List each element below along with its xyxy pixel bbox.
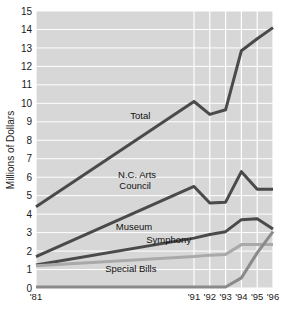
y-tick-label: 3 [26,227,32,238]
x-tick-label: '94 [235,291,247,302]
y-tick-label: 8 [26,135,32,146]
series-label-symphony: Symphony [146,234,191,245]
series-label-n-c-arts-council: N.C. Arts [118,169,156,180]
y-tick-label: 10 [21,98,33,109]
y-tick-label: 15 [21,6,33,17]
y-tick-label: 6 [26,172,32,183]
y-tick-label: 2 [26,246,32,257]
x-tick-label: '92 [204,291,216,302]
y-tick-label: 12 [21,61,33,72]
y-tick-label: 14 [21,24,33,35]
x-tick-label: '93 [219,291,231,302]
line-chart: 0123456789101112131415 '81'91'92'93'94'9… [0,0,281,309]
chart-container: 0123456789101112131415 '81'91'92'93'94'9… [0,0,281,309]
series-label-special-bills: Special Bills [105,263,156,274]
y-tick-label: 7 [26,153,32,164]
y-tick-label: 4 [26,209,32,220]
series-label-n-c-arts-council-line2: Council [119,180,151,191]
x-tick-label: '96 [267,291,279,302]
x-tick-label: '81 [30,291,42,302]
y-tick-label: 11 [22,79,33,90]
x-tick-label: '91 [188,291,200,302]
y-tick-label: 13 [21,43,33,54]
x-tick-label: '95 [251,291,263,302]
y-tick-label: 1 [26,264,32,275]
series-label-total: Total [130,110,150,121]
y-tick-label: 9 [26,116,32,127]
y-tick-label: 5 [26,190,32,201]
series-label-museum: Museum [116,221,153,232]
y-axis-title: Millions of Dollars [5,111,16,189]
